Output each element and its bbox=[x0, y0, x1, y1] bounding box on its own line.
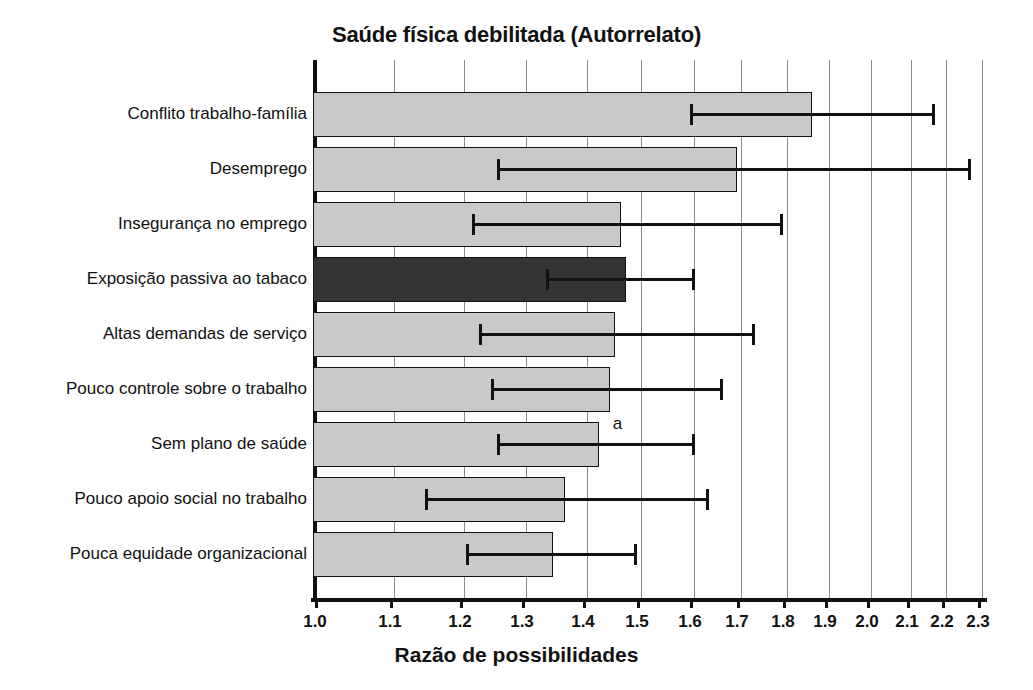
error-bar-cap-high bbox=[720, 379, 723, 400]
bar-row bbox=[313, 257, 985, 302]
error-bar-cap-low bbox=[479, 324, 482, 345]
error-bar bbox=[466, 553, 637, 556]
category-label: Pouco controle sobre o trabalho bbox=[7, 379, 307, 399]
error-bar-cap-high bbox=[706, 489, 709, 510]
error-bar-cap-low bbox=[466, 544, 469, 565]
category-label: Exposição passiva ao tabaco bbox=[7, 269, 307, 289]
category-label: Conflito trabalho-família bbox=[7, 104, 307, 124]
error-bar-cap-high bbox=[780, 214, 783, 235]
x-axis-tick bbox=[390, 598, 393, 608]
x-axis-tick bbox=[978, 598, 981, 608]
x-axis-title: Razão de possibilidades bbox=[0, 643, 1033, 667]
x-axis-tick bbox=[637, 598, 640, 608]
error-bar-cap-high bbox=[692, 434, 695, 455]
x-axis-tick bbox=[942, 598, 945, 608]
x-axis-tick-label: 1.8 bbox=[771, 612, 795, 632]
x-axis-tick-label: 2.2 bbox=[930, 612, 954, 632]
bar-row bbox=[313, 477, 985, 522]
error-bar bbox=[472, 223, 783, 226]
x-axis-tick bbox=[690, 598, 693, 608]
error-bar bbox=[479, 333, 756, 336]
x-axis-tick-label: 1.7 bbox=[725, 612, 749, 632]
error-bar-cap-low bbox=[472, 214, 475, 235]
error-bar-cap-high bbox=[634, 544, 637, 565]
x-axis-tick-label: 1.1 bbox=[378, 612, 402, 632]
category-label: Altas demandas de serviço bbox=[7, 324, 307, 344]
category-label: Pouco apoio social no trabalho bbox=[7, 489, 307, 509]
x-axis-line bbox=[311, 598, 987, 602]
error-bar bbox=[425, 498, 709, 501]
x-axis-tick-label: 2.1 bbox=[895, 612, 919, 632]
error-bar bbox=[497, 168, 971, 171]
error-bar-cap-high bbox=[752, 324, 755, 345]
error-bar-cap-high bbox=[932, 104, 935, 125]
category-label: Pouca equidade organizacional bbox=[7, 544, 307, 564]
bar-row bbox=[313, 312, 985, 357]
x-axis-tick bbox=[522, 598, 525, 608]
error-bar bbox=[491, 388, 723, 391]
x-axis-tick-label: 2.3 bbox=[966, 612, 990, 632]
x-axis-tick-label: 1.5 bbox=[625, 612, 649, 632]
x-axis-tick-label: 2.0 bbox=[855, 612, 879, 632]
significance-annotation: a bbox=[613, 414, 622, 434]
error-bar bbox=[497, 443, 695, 446]
x-axis-tick bbox=[825, 598, 828, 608]
bar-row bbox=[313, 147, 985, 192]
error-bar-cap-high bbox=[692, 269, 695, 290]
x-axis-tick bbox=[783, 598, 786, 608]
bar-row bbox=[313, 422, 985, 467]
bar-row bbox=[313, 367, 985, 412]
error-bar-cap-low bbox=[491, 379, 494, 400]
x-axis-tick bbox=[907, 598, 910, 608]
x-axis-tick bbox=[737, 598, 740, 608]
category-label: Sem plano de saúde bbox=[7, 434, 307, 454]
category-label: Desemprego bbox=[7, 159, 307, 179]
x-axis-tick-label: 1.2 bbox=[448, 612, 472, 632]
x-axis-tick bbox=[583, 598, 586, 608]
error-bar-cap-low bbox=[690, 104, 693, 125]
error-bar-cap-low bbox=[425, 489, 428, 510]
x-axis-tick bbox=[867, 598, 870, 608]
error-bar-cap-low bbox=[497, 159, 500, 180]
x-axis-tick-label: 1.6 bbox=[678, 612, 702, 632]
chart-figure: Saúde física debilitada (Autorrelato) Ra… bbox=[0, 0, 1033, 690]
category-label: Insegurança no emprego bbox=[7, 214, 307, 234]
bar-row bbox=[313, 92, 985, 137]
x-axis-tick bbox=[315, 598, 318, 608]
x-axis-tick-label: 1.0 bbox=[303, 612, 327, 632]
bar-row bbox=[313, 532, 985, 577]
error-bar bbox=[690, 113, 935, 116]
error-bar bbox=[546, 278, 694, 281]
x-axis-tick-label: 1.9 bbox=[813, 612, 837, 632]
error-bar-cap-high bbox=[968, 159, 971, 180]
chart-title: Saúde física debilitada (Autorrelato) bbox=[0, 22, 1033, 48]
bar-row bbox=[313, 202, 985, 247]
x-axis-tick bbox=[460, 598, 463, 608]
x-axis-tick-label: 1.3 bbox=[510, 612, 534, 632]
error-bar-cap-low bbox=[546, 269, 549, 290]
x-axis-tick-label: 1.4 bbox=[571, 612, 595, 632]
error-bar-cap-low bbox=[497, 434, 500, 455]
